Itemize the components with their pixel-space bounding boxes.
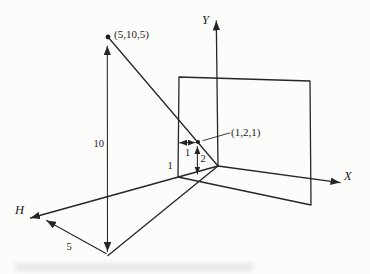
perspective-projection-diagram: Y X H (5,10,5) (1,2,1) 10 5 1 1 2 xyxy=(0,0,370,274)
screen-x-1-label: 1 xyxy=(185,147,190,158)
screen-point-dot xyxy=(196,140,200,144)
x-axis-label: X xyxy=(343,169,353,183)
paper-background xyxy=(0,0,370,274)
space-point-dot xyxy=(106,35,111,40)
depth-5-label: 5 xyxy=(66,241,71,252)
figure-canvas: Y X H (5,10,5) (1,2,1) 10 5 1 1 2 xyxy=(0,0,370,274)
screen-point-label: (1,2,1) xyxy=(231,126,261,139)
h-axis-label: H xyxy=(14,203,25,217)
space-point-label: (5,10,5) xyxy=(114,28,149,41)
scan-shadow xyxy=(14,263,254,271)
plane-offset-1-label: 1 xyxy=(167,160,172,171)
height-10-label: 10 xyxy=(94,138,105,149)
screen-y-2-label: 2 xyxy=(201,153,206,164)
